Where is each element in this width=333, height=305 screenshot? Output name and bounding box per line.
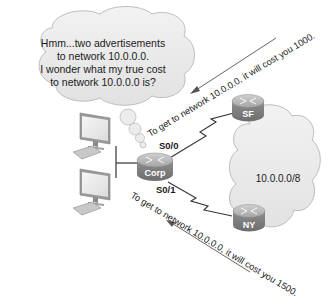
network-cloud-label: 10.0.0.0/8 [256, 173, 301, 184]
workstation-2[interactable] [73, 169, 110, 215]
thought-dot [120, 109, 136, 125]
router-sf-label: SF [242, 109, 254, 119]
network-diagram: Hmm...two advertisements to network 10.0… [0, 0, 333, 305]
router-corp[interactable]: Corp [137, 153, 173, 181]
lan-segment [116, 146, 138, 178]
interface-s0-0-label: S0/0 [159, 140, 179, 151]
thought-line-2: to network 10.0.0.0. [57, 50, 149, 62]
interface-s0-1-label: S0/1 [156, 184, 176, 195]
workstation-1[interactable] [73, 113, 110, 159]
arrow-head-icon [190, 86, 200, 94]
monitor-icon [80, 113, 110, 150]
thought-dot [140, 142, 146, 148]
router-ny-label: NY [243, 220, 256, 230]
monitor-icon [80, 169, 110, 206]
thought-dot [136, 134, 145, 143]
thought-line-3: I wonder what my true cost [40, 63, 166, 75]
router-ny[interactable]: NY [233, 205, 265, 232]
serial-link-corp-ny [168, 182, 232, 216]
thought-line-1: Hmm...two advertisements [41, 37, 165, 49]
thought-bubble: Hmm...two advertisements to network 10.0… [39, 7, 194, 149]
router-corp-label: Corp [145, 168, 166, 178]
thought-line-4: to network 10.0.0.0 is? [50, 76, 156, 88]
router-sf[interactable]: SF [232, 95, 264, 122]
